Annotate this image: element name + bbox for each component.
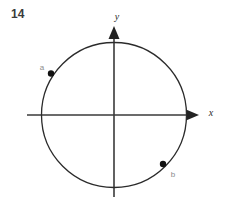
x-axis-label: x: [208, 107, 214, 118]
x-axis-arrowhead: [186, 110, 199, 121]
figure-root: 14 a b y x: [0, 0, 227, 204]
point-a-marker: [48, 70, 54, 76]
y-axis-label: y: [114, 11, 120, 22]
point-b-marker: [160, 161, 166, 167]
y-axis-arrowhead: [109, 26, 120, 39]
point-a-label: a: [40, 63, 45, 72]
unit-circle-diagram: a b y x: [0, 0, 227, 204]
point-b-label: b: [171, 170, 176, 179]
